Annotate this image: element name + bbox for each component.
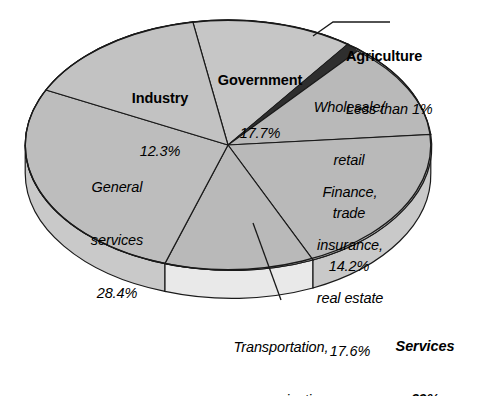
label-services-value: 69% xyxy=(370,391,480,396)
label-general-line2: services xyxy=(56,232,178,249)
label-transportation-communication-utilities: Transportation, communication, public ut… xyxy=(196,303,366,396)
label-finance-line1: Finance, xyxy=(288,184,412,201)
label-wholesale-line1: Wholesale/ xyxy=(296,99,402,116)
label-general-line1: General xyxy=(56,179,178,196)
label-transport-line2: communication, xyxy=(196,392,366,396)
label-finance-line2: insurance, xyxy=(288,237,412,254)
pie-chart-figure: Agriculture Less than 1% Government 17.7… xyxy=(0,0,496,396)
label-general-services: General services 28.4% xyxy=(56,143,178,338)
label-services-total: Services 69% xyxy=(370,302,480,396)
label-transport-line1: Transportation, xyxy=(196,339,366,356)
label-general-value: 28.4% xyxy=(56,285,178,302)
label-services-name: Services xyxy=(370,338,480,355)
label-industry-name: Industry xyxy=(108,90,212,107)
